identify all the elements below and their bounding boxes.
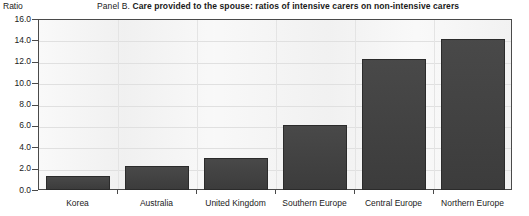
- bar-slot: [38, 19, 117, 190]
- bar-slot: [354, 19, 433, 190]
- x-axis-label-united-kingdom: United Kingdom: [196, 198, 275, 208]
- y-axis-tick: [32, 19, 38, 20]
- y-axis-tick: [32, 169, 38, 170]
- bar-australia: [125, 166, 189, 190]
- y-axis-tick-label: 4.0: [0, 143, 31, 152]
- y-axis-tick-label: 10.0: [0, 79, 31, 88]
- x-axis-tick: [117, 190, 118, 194]
- y-axis-tick-label: 6.0: [0, 121, 31, 130]
- y-axis-tick-label: 14.0: [0, 36, 31, 45]
- x-axis-label-northern-europe: Northern Europe: [433, 198, 512, 208]
- x-axis-tick: [275, 190, 276, 194]
- x-axis-label-korea: Korea: [38, 198, 117, 208]
- y-axis-tick: [32, 83, 38, 84]
- bar-united-kingdom: [204, 158, 268, 190]
- x-axis-label-southern-europe: Southern Europe: [275, 198, 354, 208]
- chart-title-text: Care provided to the spouse: ratios of i…: [132, 1, 459, 11]
- y-axis-tick: [32, 126, 38, 127]
- bar-korea: [46, 176, 110, 190]
- bar-slot: [117, 19, 196, 190]
- y-axis-tick-label: 0.0: [0, 186, 31, 195]
- bar-slot: [196, 19, 275, 190]
- chart-title-panel-tag: Panel B.: [97, 1, 130, 11]
- y-axis-tick: [32, 190, 38, 191]
- x-axis-tick: [433, 190, 434, 194]
- y-axis-tick-label: 12.0: [0, 57, 31, 66]
- y-axis-tick: [32, 62, 38, 63]
- bar-central-europe: [362, 59, 426, 190]
- bar-slot: [433, 19, 512, 190]
- y-axis-tick-label: 2.0: [0, 164, 31, 173]
- y-axis-tick: [32, 147, 38, 148]
- y-axis-unit-label: Ratio: [3, 1, 23, 12]
- x-axis-tick: [354, 190, 355, 194]
- x-axis-label-central-europe: Central Europe: [354, 198, 433, 208]
- bar-northern-europe: [441, 39, 505, 190]
- chart-title: Panel B. Care provided to the spouse: ra…: [97, 1, 459, 12]
- bar-slot: [275, 19, 354, 190]
- x-axis-tick: [196, 190, 197, 194]
- y-axis-tick: [32, 40, 38, 41]
- y-axis-tick-label: 16.0: [0, 15, 31, 24]
- bar-southern-europe: [283, 125, 347, 190]
- y-axis-tick: [32, 105, 38, 106]
- x-axis-label-australia: Australia: [117, 198, 196, 208]
- bars-layer: [38, 19, 512, 190]
- y-axis-tick-label: 8.0: [0, 100, 31, 109]
- chart-root: Ratio Panel B. Care provided to the spou…: [0, 0, 529, 216]
